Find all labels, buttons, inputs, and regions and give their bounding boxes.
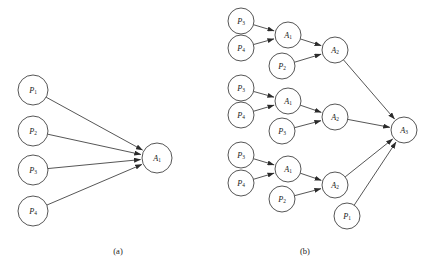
nodes-layer: P1P2P3P4A1P3P4A1P2A2P3P4A1P3A2P3P4A1P2A2… bbox=[18, 8, 417, 229]
figure-canvas: P1P2P3P4A1P3P4A1P2A2P3P4A1P3A2P3P4A1P2A2… bbox=[0, 0, 428, 270]
node-b-g1-a2: A2 bbox=[322, 37, 348, 63]
edge-b-g3-p4-to-b-g3-a1 bbox=[253, 173, 274, 179]
edge-b-g1-p2-to-b-g1-a2 bbox=[294, 54, 321, 62]
node-a-p4: P4 bbox=[18, 196, 48, 226]
node-b-g1-p2: P2 bbox=[269, 53, 295, 79]
edge-b-g1-a1-to-b-g1-a2 bbox=[300, 39, 321, 46]
edge-b-g3-a1-to-b-g3-a2 bbox=[300, 173, 321, 180]
edge-b-g2-a1-to-b-g2-a2 bbox=[300, 105, 321, 112]
node-b-a3: A3 bbox=[391, 117, 417, 143]
node-b-g2-p3b: P3 bbox=[269, 118, 295, 144]
edge-b-g2-a2-to-b-a3 bbox=[348, 119, 390, 127]
edge-b-g2-p4-to-b-g2-a1 bbox=[253, 105, 274, 111]
node-b-g3-p4: P4 bbox=[228, 170, 254, 196]
captions-layer: (a)(b) bbox=[113, 246, 310, 256]
caption-panel-b: (b) bbox=[300, 246, 310, 256]
node-b-g2-a2: A2 bbox=[322, 104, 348, 130]
edge-b-p1-to-b-a3 bbox=[354, 142, 396, 205]
edge-b-g1-a2-to-b-a3 bbox=[343, 60, 394, 119]
edge-a-p1-to-a-a1 bbox=[46, 97, 142, 150]
edge-b-g3-p3-to-b-g3-a1 bbox=[253, 159, 274, 165]
node-a-p3: P3 bbox=[18, 155, 48, 185]
node-b-g1-p4: P4 bbox=[228, 35, 254, 61]
edge-a-p4-to-a-a1 bbox=[47, 164, 142, 205]
edge-b-g2-p3b-to-b-g2-a2 bbox=[295, 121, 321, 128]
caption-panel-a: (a) bbox=[113, 246, 123, 256]
edge-b-g1-p4-to-b-g1-a1 bbox=[254, 39, 274, 45]
node-b-g3-a2: A2 bbox=[322, 172, 348, 198]
node-b-g3-p2: P2 bbox=[269, 186, 295, 212]
node-b-g2-a1: A1 bbox=[275, 88, 301, 114]
edge-b-g1-p3-to-b-g1-a1 bbox=[253, 25, 274, 31]
node-a-a1: A1 bbox=[142, 143, 172, 173]
node-b-g2-p3: P3 bbox=[228, 75, 254, 101]
node-b-g3-p3: P3 bbox=[228, 142, 254, 168]
edge-a-p2-to-a-a1 bbox=[48, 134, 141, 154]
node-a-p1: P1 bbox=[18, 75, 48, 105]
node-a-p2: P2 bbox=[18, 116, 48, 146]
edge-b-g3-p2-to-b-g3-a2 bbox=[295, 189, 321, 196]
node-b-g3-a1: A1 bbox=[275, 156, 301, 182]
node-b-g1-p3: P3 bbox=[228, 8, 254, 34]
node-b-g1-a1: A1 bbox=[275, 22, 301, 48]
node-b-g2-p4: P4 bbox=[228, 102, 254, 128]
edge-b-g2-p3-to-b-g2-a1 bbox=[254, 91, 274, 97]
node-b-p1: P1 bbox=[334, 203, 360, 229]
edge-a-p3-to-a-a1 bbox=[48, 160, 141, 169]
